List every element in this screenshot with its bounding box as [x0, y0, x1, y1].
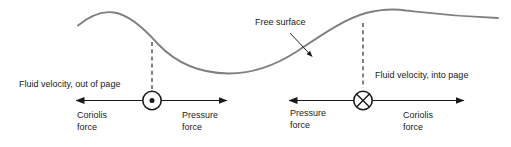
- right-coriolis-force-label-line2: force: [403, 122, 423, 134]
- free-surface-label: Free surface: [255, 17, 306, 29]
- left-pressure-force-label-line2: force: [182, 122, 202, 134]
- right-fluid-velocity-label: Fluid velocity, into page: [375, 70, 468, 82]
- left-coriolis-force-label-line2: force: [77, 122, 97, 134]
- left-pressure-force-label-line1: Pressure: [182, 110, 218, 122]
- right-pressure-force-label-line1: Pressure: [290, 108, 326, 120]
- left-coriolis-force-label-line1: Coriolis: [77, 110, 107, 122]
- right-pressure-force-label-line2: force: [290, 120, 310, 132]
- ocean-free-surface-force-diagram: Free surface Fluid velocity, out of page…: [0, 0, 511, 147]
- out-of-page-dot-icon: [150, 98, 155, 103]
- right-coriolis-force-label-line1: Coriolis: [403, 110, 433, 122]
- left-fluid-velocity-label: Fluid velocity, out of page: [19, 79, 120, 91]
